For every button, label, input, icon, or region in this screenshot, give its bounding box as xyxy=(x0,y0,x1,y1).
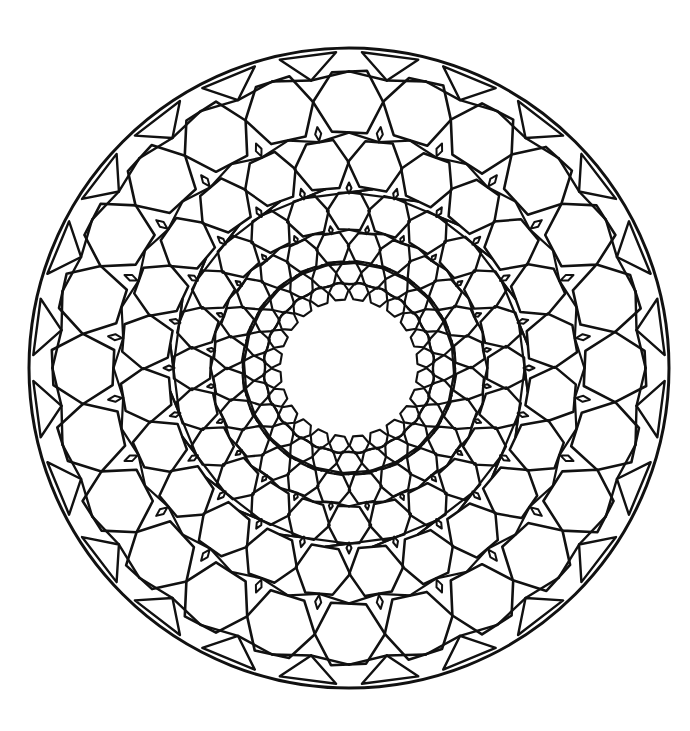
spiral-line xyxy=(268,335,270,346)
spiral-line xyxy=(122,307,124,338)
rim-connector-line xyxy=(139,138,172,158)
rim-connector-line xyxy=(387,654,426,655)
mandala-outer-circle xyxy=(29,48,669,688)
spiral-line xyxy=(575,398,577,429)
diamond xyxy=(561,456,574,462)
hexagon xyxy=(173,347,211,390)
diamond xyxy=(531,507,542,516)
spiral-line xyxy=(338,452,349,453)
hexagon xyxy=(287,195,329,236)
spiral-line xyxy=(145,229,168,250)
hexagon xyxy=(527,314,577,368)
rim-connector-line xyxy=(272,654,311,655)
rim-connector-line xyxy=(81,479,92,516)
spiral-line xyxy=(288,141,319,143)
hexagon xyxy=(453,367,484,400)
spiral-line xyxy=(483,332,484,350)
spiral-line xyxy=(530,229,553,250)
rim-connector-line xyxy=(387,80,426,81)
spiral-line xyxy=(264,357,265,368)
rim-notch-triangle xyxy=(135,101,180,138)
rim-connector-line xyxy=(606,479,617,516)
diamond xyxy=(437,580,443,593)
spiral-line xyxy=(379,594,410,596)
rim-notch-triangle xyxy=(135,598,180,635)
diamond xyxy=(201,175,210,186)
diamond xyxy=(437,144,443,157)
diamond xyxy=(125,456,138,462)
rim-connector-line xyxy=(81,220,92,257)
hexagon xyxy=(385,592,453,660)
hexagon xyxy=(200,178,251,232)
diamond xyxy=(256,144,262,157)
rim-connector-line xyxy=(559,158,579,191)
rim-notch-triangle xyxy=(518,598,563,635)
rim-connector-line xyxy=(526,138,559,158)
hexagon xyxy=(214,336,245,369)
diamond xyxy=(377,127,383,141)
diamond xyxy=(576,334,590,340)
spiral-line xyxy=(267,248,280,260)
hexagon xyxy=(451,564,513,634)
outer-circle xyxy=(29,48,669,688)
hexagon xyxy=(349,473,382,504)
mandala-diamonds xyxy=(108,127,590,609)
rim-connector-line xyxy=(201,100,238,111)
hexagon xyxy=(57,404,125,472)
spiral-line xyxy=(488,187,516,201)
rim-connector-line xyxy=(201,625,238,636)
diamond xyxy=(156,220,167,229)
spiral-line xyxy=(530,486,553,507)
diamond xyxy=(315,127,321,141)
diamond xyxy=(488,550,497,561)
spiral-line xyxy=(229,437,241,450)
diamond xyxy=(576,396,590,402)
hexagon xyxy=(317,472,350,503)
hexagon xyxy=(295,140,349,190)
spiral-line xyxy=(433,357,434,368)
hexagon xyxy=(159,466,213,517)
hexagon xyxy=(176,388,217,430)
hexagon xyxy=(487,346,525,389)
diamond xyxy=(125,275,138,281)
diamond xyxy=(156,507,167,516)
spiral-line xyxy=(215,386,216,404)
spiral-line xyxy=(379,141,410,143)
spiral-line xyxy=(367,502,385,503)
hexagon xyxy=(328,506,371,544)
hexagon xyxy=(485,219,539,270)
diamond xyxy=(531,220,542,229)
rim-connector-line xyxy=(119,545,139,578)
diamond xyxy=(315,595,321,609)
spiral-line xyxy=(467,549,488,572)
spiral-line xyxy=(313,502,331,503)
spiral-line xyxy=(456,286,468,299)
rim-connector-line xyxy=(119,158,139,191)
rim-notch-triangle xyxy=(518,101,563,138)
diamond xyxy=(561,275,574,281)
hexagon xyxy=(247,590,315,658)
spiral-line xyxy=(264,368,265,379)
rim-connector-line xyxy=(606,220,617,257)
hexagon xyxy=(481,306,522,348)
hexagon xyxy=(348,233,381,264)
spiral-line xyxy=(483,386,484,404)
rim-connector-line xyxy=(635,406,636,445)
rim-connector-line xyxy=(526,578,559,598)
spiral-line xyxy=(367,234,385,235)
rim-connector-line xyxy=(460,100,497,111)
hexagon xyxy=(327,192,370,230)
hexagon xyxy=(121,368,171,422)
rim-connector-line xyxy=(460,625,497,636)
hexagon xyxy=(383,78,451,146)
diamond xyxy=(256,580,262,593)
diamond xyxy=(108,334,122,340)
spiral-line xyxy=(183,534,211,548)
spiral-line xyxy=(145,486,168,507)
mandala-hexagon-rings xyxy=(52,71,646,665)
spiral-line xyxy=(215,332,216,350)
spiral-line xyxy=(371,287,382,289)
hexagon xyxy=(83,470,153,532)
hexagon xyxy=(315,603,385,665)
hexagon xyxy=(573,264,641,332)
